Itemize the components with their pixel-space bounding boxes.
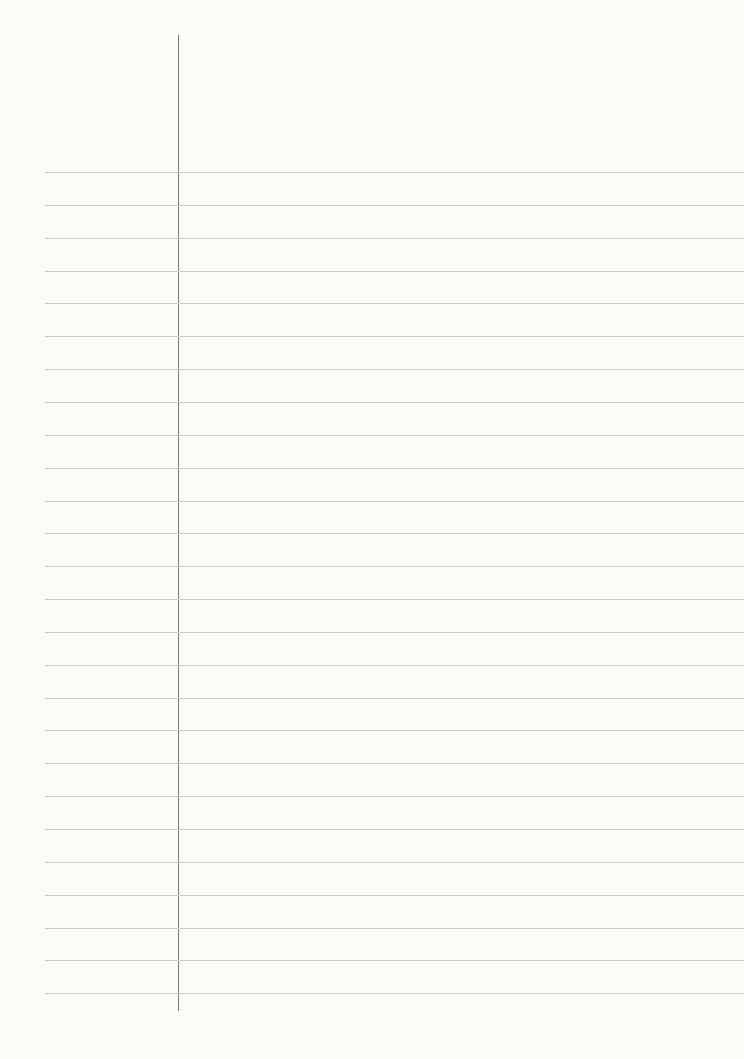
ruled-line [45, 993, 744, 994]
ruled-line [45, 862, 744, 863]
lined-paper-sheet [0, 0, 744, 1059]
ruled-line [45, 599, 744, 600]
ruled-line [45, 336, 744, 337]
ruled-line [45, 632, 744, 633]
ruled-line [45, 796, 744, 797]
ruled-line [45, 566, 744, 567]
ruled-line [45, 271, 744, 272]
ruled-line [45, 533, 744, 534]
ruled-line [45, 763, 744, 764]
ruled-line [45, 172, 744, 173]
ruled-line [45, 402, 744, 403]
ruled-line [45, 238, 744, 239]
ruled-line [45, 435, 744, 436]
ruled-line [45, 501, 744, 502]
ruled-line [45, 895, 744, 896]
margin-line [178, 35, 179, 1011]
ruled-line [45, 468, 744, 469]
ruled-line [45, 928, 744, 929]
ruled-line [45, 730, 744, 731]
ruled-line [45, 698, 744, 699]
ruled-line [45, 960, 744, 961]
ruled-line [45, 369, 744, 370]
ruled-line [45, 303, 744, 304]
ruled-line [45, 829, 744, 830]
ruled-line [45, 665, 744, 666]
ruled-line [45, 205, 744, 206]
